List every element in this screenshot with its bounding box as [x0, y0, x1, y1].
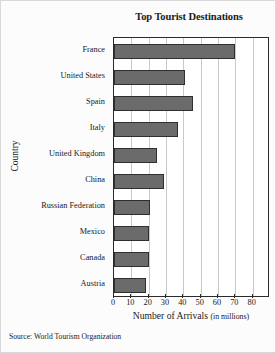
plot-area	[113, 37, 269, 297]
y-axis-tick-label: Italy	[90, 115, 105, 141]
x-axis-tick-label: 0	[111, 298, 115, 307]
bar	[114, 122, 178, 137]
bar	[114, 148, 157, 163]
x-axis-tick-label: 30	[161, 298, 169, 307]
x-axis-title: Number of Arrivals (in millions)	[109, 310, 273, 321]
y-axis-tick-label: United States	[61, 63, 105, 89]
bar	[114, 174, 164, 189]
bar-row	[114, 90, 269, 116]
bar-row	[114, 272, 269, 297]
bar	[114, 70, 185, 85]
x-axis-tick	[252, 294, 253, 298]
x-axis-tick	[130, 294, 131, 298]
x-axis-tick	[165, 294, 166, 298]
x-axis-tick	[182, 294, 183, 298]
bar-series	[114, 38, 268, 296]
bar-row	[114, 220, 269, 246]
y-axis-tick-label: Canada	[80, 245, 105, 271]
y-axis-tick-label: United Kingdom	[49, 141, 105, 167]
x-axis-title-text: Number of Arrivals	[133, 310, 208, 321]
bar-row	[114, 194, 269, 220]
y-axis-tick-label: Austria	[81, 271, 105, 297]
x-axis-tick-label: 80	[248, 298, 256, 307]
bar-row	[114, 38, 269, 64]
bar-row	[114, 142, 269, 168]
bar	[114, 278, 146, 293]
chart-title: Top Tourist Destinations	[109, 11, 269, 22]
x-axis-tick-labels: 01020304050607080	[113, 298, 269, 310]
x-axis-tick-label: 60	[213, 298, 221, 307]
y-axis-tick-labels: FranceUnited StatesSpainItalyUnited King…	[1, 37, 109, 297]
bar	[114, 44, 235, 59]
y-axis-tick-label: China	[85, 167, 105, 193]
x-axis-tick-label: 40	[178, 298, 186, 307]
x-axis-tick-label: 70	[230, 298, 238, 307]
x-axis-tick	[148, 294, 149, 298]
bar-row	[114, 116, 269, 142]
x-axis-tick	[234, 294, 235, 298]
bar	[114, 252, 149, 267]
x-axis-tick	[217, 294, 218, 298]
bar-row	[114, 64, 269, 90]
chart-figure: Top Tourist Destinations Country FranceU…	[0, 0, 276, 353]
x-axis-tick	[113, 294, 114, 298]
bar-row	[114, 246, 269, 272]
x-axis-tick-label: 20	[144, 298, 152, 307]
x-axis-title-unit: (in millions)	[210, 312, 249, 321]
x-axis-tick	[200, 294, 201, 298]
y-axis-tick-label: France	[82, 37, 105, 63]
y-axis-tick-label: Russian Federation	[41, 193, 105, 219]
source-note: Source: World Tourism Organization	[9, 332, 121, 341]
y-axis-tick-label: Spain	[86, 89, 105, 115]
bar	[114, 226, 149, 241]
x-axis-tick-label: 50	[196, 298, 204, 307]
x-axis-tick-label: 10	[126, 298, 134, 307]
bar	[114, 200, 150, 215]
bar-row	[114, 168, 269, 194]
y-axis-tick-label: Mexico	[80, 219, 105, 245]
bar	[114, 96, 193, 111]
